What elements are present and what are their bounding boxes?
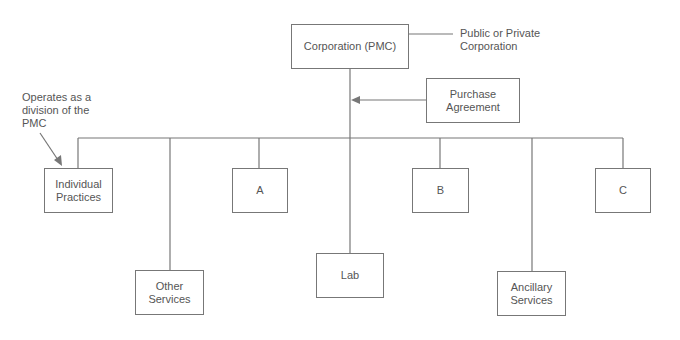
root-note: Public or Private Corporation	[460, 27, 570, 53]
corporation-label: Corporation (PMC)	[304, 40, 396, 53]
other-services-box: Other Services	[135, 270, 204, 315]
a-box: A	[232, 168, 288, 213]
b-box: B	[412, 168, 469, 213]
corporation-box: Corporation (PMC)	[291, 24, 409, 69]
ancillary-services-box: Ancillary Services	[497, 271, 566, 316]
lab-box: Lab	[316, 253, 384, 298]
individual-practices-box: Individual Practices	[44, 168, 113, 213]
c-box: C	[595, 168, 651, 213]
purchase-agreement-box: Purchase Agreement	[426, 78, 520, 123]
division-note: Operates as a division of the PMC	[22, 91, 102, 130]
purchase-agreement-label: Purchase Agreement	[441, 88, 505, 114]
